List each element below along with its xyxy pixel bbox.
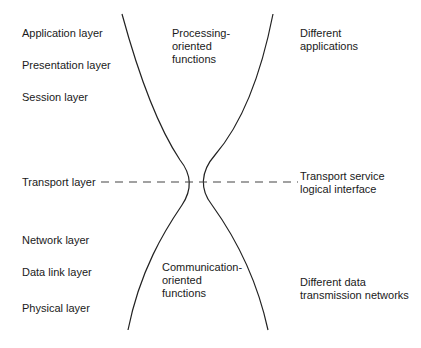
transport-service-interface-label: Transport service logical interface: [300, 170, 385, 196]
label-data-link-layer: Data link layer: [22, 266, 92, 279]
label-transport-layer: Transport layer: [22, 176, 96, 189]
processing-oriented-functions-label: Processing- oriented functions: [172, 27, 230, 66]
label-session-layer: Session layer: [22, 91, 88, 104]
different-networks-label: Different data transmission networks: [300, 276, 409, 302]
label-network-layer: Network layer: [22, 234, 89, 247]
label-application-layer: Application layer: [22, 27, 103, 40]
label-presentation-layer: Presentation layer: [22, 59, 111, 72]
label-physical-layer: Physical layer: [22, 302, 90, 315]
different-applications-label: Different applications: [300, 27, 358, 53]
communication-oriented-functions-label: Communication- oriented functions: [162, 261, 242, 300]
